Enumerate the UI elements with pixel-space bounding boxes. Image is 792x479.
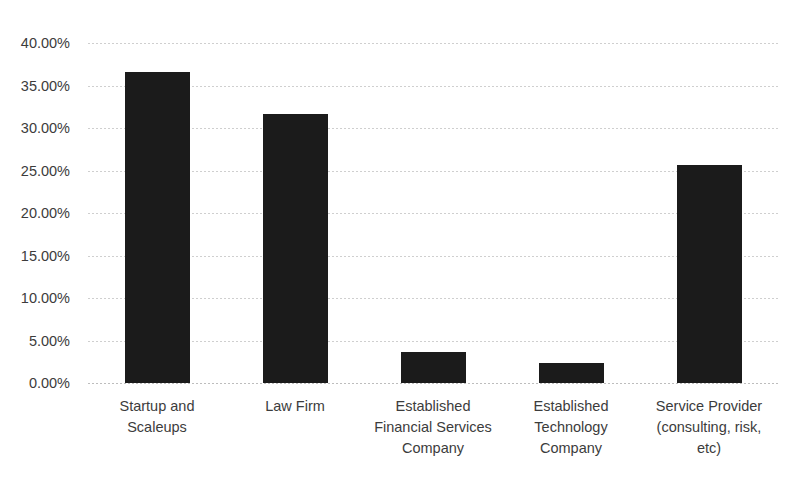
y-axis-tick-label: 40.00%	[0, 35, 70, 51]
y-axis-tick-label: 35.00%	[0, 78, 70, 94]
x-axis-category-label: EstablishedTechnologyCompany	[502, 396, 640, 459]
x-axis-label-line: Service Provider	[640, 396, 778, 417]
plot-area	[88, 43, 778, 383]
bar[interactable]	[125, 72, 190, 383]
x-axis-label-line: Startup and	[88, 396, 226, 417]
y-axis-tick-label: 20.00%	[0, 205, 70, 221]
bar[interactable]	[263, 114, 328, 383]
gridline	[88, 213, 778, 214]
y-axis-tick-label: 0.00%	[0, 375, 70, 391]
gridline	[88, 43, 778, 44]
gridline	[88, 341, 778, 342]
x-axis-label-line: Financial Services	[364, 417, 502, 438]
x-axis-label-line: Established	[364, 396, 502, 417]
y-axis-tick-label: 10.00%	[0, 290, 70, 306]
y-axis-tick-label: 25.00%	[0, 163, 70, 179]
gridline	[88, 298, 778, 299]
x-axis-category-label: Service Provider(consulting, risk,etc)	[640, 396, 778, 459]
bar-chart: 0.00%5.00%10.00%15.00%20.00%25.00%30.00%…	[0, 0, 792, 479]
gridline	[88, 383, 778, 384]
bar[interactable]	[401, 352, 466, 383]
x-axis-label-line: Scaleups	[88, 417, 226, 438]
x-axis-category-label: Law Firm	[226, 396, 364, 417]
bar[interactable]	[677, 165, 742, 383]
gridline	[88, 256, 778, 257]
y-axis-tick-label: 5.00%	[0, 333, 70, 349]
x-axis-label-line: Company	[364, 438, 502, 459]
x-axis-label-line: Established	[502, 396, 640, 417]
x-axis-category-label: Startup andScaleups	[88, 396, 226, 438]
x-axis-label-line: etc)	[640, 438, 778, 459]
x-axis-label-line: Technology	[502, 417, 640, 438]
x-axis-label-line: Company	[502, 438, 640, 459]
gridline	[88, 171, 778, 172]
x-axis-category-label: EstablishedFinancial ServicesCompany	[364, 396, 502, 459]
x-axis-label-line: Law Firm	[226, 396, 364, 417]
x-axis-label-line: (consulting, risk,	[640, 417, 778, 438]
gridline	[88, 128, 778, 129]
bar[interactable]	[539, 363, 604, 383]
y-axis-tick-label: 15.00%	[0, 248, 70, 264]
gridline	[88, 86, 778, 87]
y-axis-tick-label: 30.00%	[0, 120, 70, 136]
